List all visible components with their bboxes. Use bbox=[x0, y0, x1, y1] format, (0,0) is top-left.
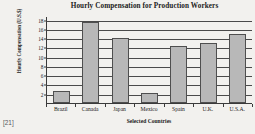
x-axis-label-japan: Japan bbox=[105, 106, 134, 112]
x-axis-label-u-k: U.K. bbox=[193, 106, 222, 112]
x-axis-title: Selected Countries bbox=[46, 118, 252, 124]
bar-slot bbox=[76, 17, 105, 103]
bar-u-k bbox=[200, 43, 217, 103]
chart-title: Hourly Compensation for Production Worke… bbox=[34, 2, 255, 10]
bar-slot bbox=[164, 17, 193, 103]
bar-u-s-a bbox=[229, 34, 246, 103]
bar-canada bbox=[82, 22, 99, 103]
x-axis-tick-mark bbox=[252, 104, 253, 107]
bar-slot bbox=[106, 17, 135, 103]
bars-group bbox=[47, 17, 252, 103]
bar-mexico bbox=[141, 93, 158, 103]
x-axis-label-u-s-a: U.S.A. bbox=[223, 106, 252, 112]
x-axis-label-brazil: Brazil bbox=[46, 106, 75, 112]
footnote-reference: [21] bbox=[3, 119, 14, 126]
x-axis-label-mexico: Mexico bbox=[134, 106, 163, 112]
bar-brazil bbox=[53, 91, 70, 103]
plot-area: 24681012141618 bbox=[46, 17, 252, 104]
x-axis-labels-group: BrazilCanadaJapanMexicoSpainU.K.U.S.A. bbox=[46, 106, 252, 112]
bar-slot bbox=[223, 17, 252, 103]
x-axis-label-spain: Spain bbox=[164, 106, 193, 112]
bar-slot bbox=[135, 17, 164, 103]
y-axis-title: Hourly Compensation (U.S.$) bbox=[16, 1, 22, 81]
chart-screenshot: Hourly Compensation for Production Worke… bbox=[0, 0, 255, 134]
bar-slot bbox=[193, 17, 222, 103]
bar-slot bbox=[47, 17, 76, 103]
x-axis-label-canada: Canada bbox=[75, 106, 104, 112]
bar-spain bbox=[170, 46, 187, 103]
bar-japan bbox=[112, 38, 129, 103]
